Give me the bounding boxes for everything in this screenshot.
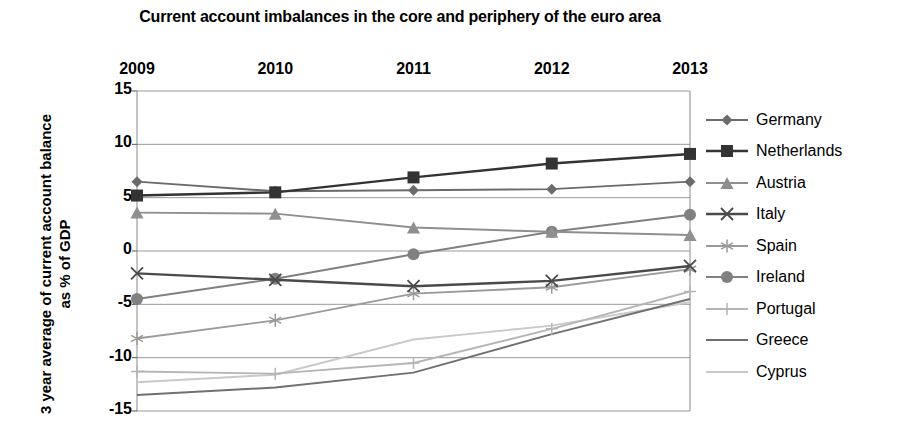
legend-item-greece[interactable]: Greece [705,325,901,357]
legend-label: Italy [749,205,785,223]
marker-plus [131,366,143,378]
legend-marker-asterisk-icon [705,236,749,256]
marker-plus [408,357,420,369]
legend-label: Netherlands [749,142,842,160]
legend-marker-circle-icon [705,267,749,287]
legend-marker-none-icon [705,362,749,382]
marker-diamond [132,176,143,187]
legend-marker-cross-icon [705,204,749,224]
legend-item-austria[interactable]: Austria [705,167,901,199]
series-line [137,266,690,286]
marker-diamond [685,176,696,187]
legend-marker-square-icon [705,141,749,161]
legend-label: Austria [749,174,806,192]
marker-plus [684,286,696,298]
chart-container: Current account imbalances in the core a… [0,0,901,441]
legend-marker-plus-icon [705,299,749,319]
series-line [137,269,690,338]
legend-label: Portugal [749,300,816,318]
marker-circle [408,248,420,260]
legend-item-italy[interactable]: Italy [705,199,901,231]
legend-marker-diamond-icon [705,110,749,130]
legend-label: Ireland [749,268,805,286]
marker-diamond [408,185,419,196]
legend-marker-none-icon [705,330,749,350]
legend-label: Spain [749,237,797,255]
marker-circle [684,209,696,221]
marker-square [131,190,143,202]
marker-square [684,148,696,160]
marker-square [721,145,733,157]
legend-label: Cyprus [749,363,807,381]
legend-item-portugal[interactable]: Portugal [705,293,901,325]
legend-label: Germany [749,111,822,129]
marker-square [269,186,281,198]
legend-item-germany[interactable]: Germany [705,104,901,136]
legend-item-netherlands[interactable]: Netherlands [705,136,901,168]
marker-plus [721,303,733,315]
marker-circle [131,293,143,305]
legend-item-ireland[interactable]: Ireland [705,262,901,294]
marker-diamond [722,114,733,125]
legend-item-cyprus[interactable]: Cyprus [705,356,901,388]
chart-legend: GermanyNetherlandsAustriaItalySpainIrela… [705,104,901,388]
marker-circle [721,271,733,283]
legend-marker-triangle-icon [705,173,749,193]
legend-item-spain[interactable]: Spain [705,230,901,262]
marker-plus [269,368,281,380]
legend-label: Greece [749,331,808,349]
marker-square [408,171,420,183]
marker-diamond [546,184,557,195]
marker-square [546,158,558,170]
